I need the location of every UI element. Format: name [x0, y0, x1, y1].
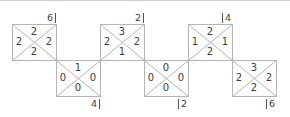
tile-5-left: 1 — [190, 37, 200, 47]
tile-5-top: 2 — [205, 27, 215, 37]
tile-6-left: 2 — [234, 73, 244, 83]
tile-6-bottom: 2 — [249, 83, 259, 93]
tile-1-right: 2 — [44, 37, 54, 47]
tile-4-left: 0 — [146, 73, 156, 83]
tile-1-top: 2 — [29, 27, 39, 37]
tile-2-bottom: 0 — [73, 83, 83, 93]
tile-3-right: 2 — [132, 37, 142, 47]
tile-6-top: 3 — [249, 63, 259, 73]
tile-2-top: 1 — [73, 63, 83, 73]
tile-4-right: 0 — [176, 73, 186, 83]
tile-1-left: 2 — [14, 37, 24, 47]
tile-4-top: 0 — [161, 63, 171, 73]
tile-3-top: 3 — [117, 27, 127, 37]
tile-1-bottom: 2 — [29, 47, 39, 57]
tile-5-total-label: 4 — [222, 13, 231, 23]
tile-6-right: 2 — [264, 73, 274, 83]
tile-5-bottom: 2 — [205, 47, 215, 57]
tile-2-total-label: 4 — [91, 99, 100, 109]
tile-6-total-label: 6 — [266, 99, 275, 109]
tile-3-left: 2 — [102, 37, 112, 47]
tile-4-total-label: 2 — [178, 99, 187, 109]
tile-4-bottom: 0 — [161, 83, 171, 93]
tile-chain-lines — [0, 0, 290, 117]
tile-2-right: 0 — [88, 73, 98, 83]
tile-3-total-label: 2 — [135, 13, 144, 23]
tile-1-total-label: 6 — [47, 13, 56, 23]
tile-2-left: 0 — [58, 73, 68, 83]
tile-5-right: 1 — [220, 37, 230, 47]
tile-3-bottom: 1 — [117, 47, 127, 57]
